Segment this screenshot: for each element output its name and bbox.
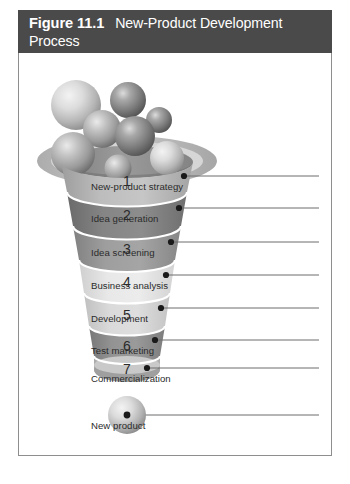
input-sphere-2 bbox=[110, 82, 146, 118]
stage-label-2: Idea generation bbox=[91, 213, 158, 224]
input-sphere-5 bbox=[115, 116, 155, 156]
input-sphere-7 bbox=[150, 141, 184, 175]
stage-label-4: Business analysis bbox=[91, 280, 168, 291]
leader-dot-3 bbox=[168, 239, 174, 245]
figure-header-text: Figure 11.1New-Product Development Proce… bbox=[29, 15, 322, 50]
leader-dot-4 bbox=[163, 272, 169, 278]
leader-dot-2 bbox=[176, 205, 182, 211]
figure-container: Figure 11.1New-Product Development Proce… bbox=[0, 0, 350, 484]
stage-label-6: Test marketing bbox=[91, 345, 154, 356]
figure-content-panel: 1 2 3 4 5 6 7 bbox=[18, 53, 332, 456]
stage-label-3: Idea screening bbox=[91, 247, 155, 258]
stage-label-5: Development bbox=[91, 313, 148, 324]
leader-dot-5 bbox=[158, 305, 164, 311]
output-label: New product bbox=[91, 420, 145, 431]
stage-label-7: Commercialization bbox=[91, 373, 171, 384]
input-sphere-cluster bbox=[51, 80, 184, 182]
leader-dot-output bbox=[124, 412, 131, 419]
leader-dot-1 bbox=[181, 173, 187, 179]
input-sphere-6 bbox=[51, 132, 95, 176]
figure-number: Figure 11.1 bbox=[29, 15, 104, 31]
leader-dot-6 bbox=[152, 337, 158, 343]
figure-header-bar: Figure 11.1New-Product Development Proce… bbox=[18, 10, 332, 53]
funnel-diagram: 1 2 3 4 5 6 7 bbox=[19, 53, 331, 454]
leader-dot-7 bbox=[144, 365, 150, 371]
stage-label-1: New-product strategy bbox=[91, 181, 183, 192]
